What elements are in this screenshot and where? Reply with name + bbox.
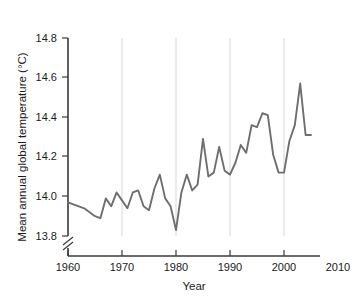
x-tick-marks (68, 250, 284, 256)
gridlines (122, 38, 284, 236)
series-line-mean-annual-global-temperature (68, 84, 311, 231)
y-tick-label-14-8: 14.8 (36, 32, 57, 44)
y-tick-label-14-6: 14.6 (36, 71, 57, 83)
y-tick-label-13-8: 13.8 (36, 230, 57, 242)
x-axis-title: Year (182, 280, 205, 292)
y-tick-marks (62, 38, 68, 236)
y-tick-label-14-4: 14.4 (36, 111, 57, 123)
x-tick-label-1990: 1990 (218, 261, 242, 273)
x-tick-label-2000: 2000 (272, 261, 296, 273)
x-tick-label-1970: 1970 (110, 261, 134, 273)
y-axis-title: Mean annual global temperature (°C) (16, 52, 28, 242)
y-tick-label-14-2: 14.2 (36, 150, 57, 162)
x-tick-label-2010: 2010 (326, 261, 350, 273)
y-tick-label-14-0: 14.0 (36, 190, 57, 202)
temperature-line-chart-figure: 14.8 14.6 14.4 14.2 14.0 13.8 1960 1970 … (0, 0, 364, 301)
x-tick-label-1980: 1980 (164, 261, 188, 273)
x-tick-label-1960: 1960 (56, 261, 80, 273)
chart-canvas: 14.8 14.6 14.4 14.2 14.0 13.8 1960 1970 … (0, 0, 364, 301)
